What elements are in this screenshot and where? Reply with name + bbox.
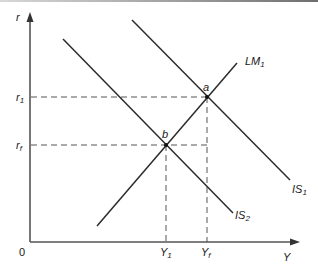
point-b-label: b	[162, 128, 168, 140]
is2-curve	[63, 39, 233, 213]
is1-label: IS1	[292, 183, 307, 197]
y-axis-arrow-icon	[27, 12, 34, 22]
x-axis-label: Y	[283, 251, 291, 263]
is2-label: IS2	[235, 209, 250, 223]
is1-curve	[132, 20, 290, 180]
x-axis-arrow-icon	[290, 239, 300, 246]
r1-label: r1	[16, 91, 24, 105]
y-axis-label: r	[16, 11, 21, 23]
origin-label: 0	[19, 246, 25, 258]
curves	[63, 20, 290, 226]
is-lm-diagram: r Y 0 r1 rf Y1 Yf LM1 IS1 IS2 a b	[0, 0, 318, 269]
lm1-label: LM1	[245, 55, 265, 69]
point-a-dot	[205, 95, 209, 99]
rf-label: rf	[16, 139, 23, 153]
guide-lines	[31, 97, 207, 242]
point-b-dot	[164, 143, 168, 147]
point-a-label: a	[203, 81, 209, 93]
y1-label: Y1	[160, 246, 172, 260]
yf-label: Yf	[201, 246, 211, 260]
